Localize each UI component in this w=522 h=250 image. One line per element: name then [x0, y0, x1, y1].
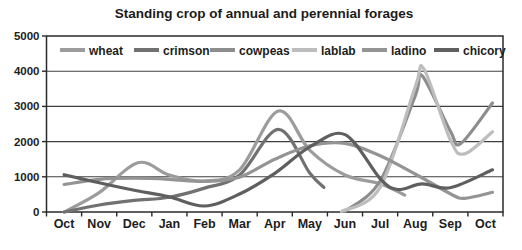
series-group	[64, 65, 492, 212]
x-axis-label: Jun	[334, 217, 356, 231]
legend-item-chicory: chicory	[434, 44, 506, 58]
legend-label-cowpeas: cowpeas	[239, 44, 290, 58]
legend-label-wheat: wheat	[88, 44, 123, 58]
chart-figure: Standing crop of annual and perennial fo…	[0, 0, 522, 250]
x-axis-label: Oct	[475, 217, 497, 231]
x-axis-label: Nov	[87, 217, 111, 231]
x-axis-label: Mar	[229, 217, 251, 231]
x-axis-label: Jul	[371, 217, 389, 231]
y-axis-label: 1000	[14, 171, 40, 183]
legend-label-crimson: crimson	[163, 44, 210, 58]
legend-item-lablab: lablab	[292, 44, 356, 58]
plot-area: 010002000300040005000OctNovDecJanFebMarA…	[14, 30, 506, 231]
y-axis-label: 5000	[14, 30, 40, 42]
y-axis-label: 0	[33, 206, 39, 218]
y-axis-label: 3000	[14, 100, 40, 112]
series-line-cowpeas	[345, 74, 493, 211]
x-axis-label: Sep	[439, 217, 462, 231]
legend-label-lablab: lablab	[321, 44, 356, 58]
y-axis-label: 2000	[14, 136, 40, 148]
line-chart-canvas: Standing crop of annual and perennial fo…	[0, 0, 522, 250]
x-axis-label: Dec	[123, 217, 146, 231]
x-axis-label: May	[298, 217, 322, 231]
chart-title: Standing crop of annual and perennial fo…	[115, 6, 414, 21]
legend-item-ladino: ladino	[362, 44, 426, 58]
x-axis-label: Jan	[159, 217, 181, 231]
y-axis-label: 4000	[14, 65, 40, 77]
legend-label-ladino: ladino	[391, 44, 426, 58]
legend-item-crimson: crimson	[134, 44, 210, 58]
legend-item-wheat: wheat	[60, 44, 123, 58]
legend-label-chicory: chicory	[463, 44, 506, 58]
x-axis-label: Oct	[54, 217, 76, 231]
x-axis-label: Feb	[193, 217, 216, 231]
legend-item-cowpeas: cowpeas	[210, 44, 290, 58]
x-axis-label: Aug	[403, 217, 427, 231]
x-axis-label: Apr	[264, 217, 286, 231]
